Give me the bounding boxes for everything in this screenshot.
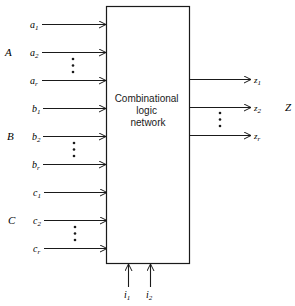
svg-text:ar: ar bbox=[30, 75, 38, 88]
ellipsis-dots-icon bbox=[73, 142, 76, 158]
ellipsis-dots-icon bbox=[74, 226, 77, 242]
svg-text:i1: i1 bbox=[124, 289, 130, 302]
input-group-c: C c1 c2 cr bbox=[8, 187, 107, 256]
input-b1: b1 bbox=[32, 103, 106, 116]
input-a1: a1 bbox=[30, 19, 106, 32]
input-br: br bbox=[32, 159, 106, 172]
input-b2: b2 bbox=[32, 131, 106, 144]
svg-text:a2: a2 bbox=[30, 47, 39, 60]
group-label-z: Z bbox=[285, 101, 292, 113]
input-ar: ar bbox=[30, 75, 106, 88]
output-group-z: z1 z2 zr Z bbox=[190, 75, 292, 143]
input-group-a: A a1 a2 ar bbox=[4, 19, 106, 88]
svg-text:b2: b2 bbox=[32, 131, 41, 144]
input-c1: c1 bbox=[33, 187, 107, 200]
group-label-a: A bbox=[4, 46, 12, 58]
input-c2: c2 bbox=[33, 215, 107, 228]
ellipsis-dots-icon bbox=[219, 112, 222, 128]
svg-text:z1: z1 bbox=[253, 75, 261, 87]
svg-text:c1: c1 bbox=[33, 187, 41, 200]
svg-text:i2: i2 bbox=[146, 289, 153, 302]
svg-text:b1: b1 bbox=[32, 103, 41, 116]
svg-text:a1: a1 bbox=[30, 19, 39, 32]
logic-network-diagram: Combinational logic network A a1 a2 ar B… bbox=[0, 0, 295, 306]
ellipsis-dots-icon bbox=[72, 58, 75, 74]
output-z2: z2 bbox=[190, 103, 262, 115]
output-zr: zr bbox=[190, 131, 261, 143]
input-a2: a2 bbox=[30, 47, 106, 60]
svg-text:br: br bbox=[32, 159, 40, 172]
block-label-line-3: network bbox=[130, 117, 166, 128]
svg-text:c2: c2 bbox=[33, 215, 41, 228]
input-group-b: B b1 b2 br bbox=[7, 103, 106, 172]
group-label-c: C bbox=[8, 214, 16, 226]
input-i2: i2 bbox=[146, 264, 153, 302]
control-inputs: i1 i2 bbox=[124, 264, 153, 302]
svg-text:cr: cr bbox=[33, 243, 40, 256]
input-cr: cr bbox=[33, 243, 107, 256]
svg-text:z2: z2 bbox=[253, 103, 262, 115]
combinational-logic-block bbox=[107, 7, 190, 264]
output-z1: z1 bbox=[190, 75, 261, 87]
group-label-b: B bbox=[7, 130, 14, 142]
svg-text:zr: zr bbox=[253, 131, 261, 143]
block-label-line-1: Combinational bbox=[115, 93, 179, 104]
input-i1: i1 bbox=[124, 264, 130, 302]
block-label-line-2: logic bbox=[136, 105, 157, 116]
